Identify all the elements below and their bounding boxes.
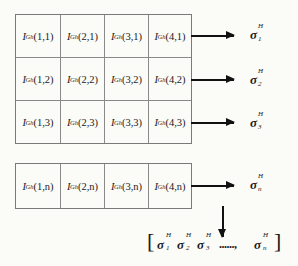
vector-item-1: σ H 1 — [157, 237, 164, 253]
cell-index: (4,1) — [165, 31, 185, 42]
cell-index: (3,1) — [122, 31, 142, 42]
cell-index: (2,1) — [78, 31, 98, 42]
sigma-subscript: 3 — [206, 244, 210, 252]
sigma-symbol: σ — [250, 115, 257, 130]
close-bracket: ] — [274, 230, 281, 252]
vector-item-2: σ H 2 — [177, 237, 184, 253]
right-arrow-icon — [191, 122, 234, 124]
grid-cell: IGh(4,3) — [149, 101, 191, 143]
cell-index: (2,2) — [78, 74, 98, 85]
cell-superscript: Gh — [157, 76, 165, 83]
sigma-superscript: H — [206, 231, 211, 239]
cell-superscript: Gh — [25, 119, 33, 126]
vector-item-n: σ H n — [254, 237, 261, 253]
cell-index: (4,2) — [165, 74, 185, 85]
sigma-subscript: 2 — [186, 244, 190, 252]
result-vector: [ σ H 1 σ H 2 σ H 3 ......, σ H n ] — [147, 230, 287, 256]
cell-index: (3,n) — [122, 181, 142, 192]
cell-superscript: Gh — [70, 119, 78, 126]
cell-superscript: Gh — [114, 76, 122, 83]
open-bracket: [ — [147, 230, 154, 252]
sigma-superscript: H — [258, 110, 263, 118]
sigma-superscript: H — [258, 172, 263, 180]
sigma-superscript: H — [186, 231, 191, 239]
sigma-symbol: σ — [250, 27, 257, 42]
grid-cell: IGh(4,1) — [149, 15, 191, 58]
sigma-symbol: σ — [157, 237, 164, 252]
sigma-subscript: n — [263, 244, 267, 252]
top-grid: IGh(1,1) IGh(2,1) IGh(3,1) IGh(4,1) IGh(… — [15, 14, 192, 144]
grid-cell: IGh(4,2) — [149, 58, 191, 101]
grid-cell: IGh(2,1) — [61, 15, 105, 58]
cell-index: (2,n) — [78, 181, 98, 192]
cell-superscript: Gh — [25, 183, 33, 190]
grid-cell: IGh(3,n) — [105, 164, 149, 208]
sigma-output-1: σ H 1 — [250, 27, 257, 43]
cell-index: (4,n) — [165, 181, 185, 192]
cell-index: (4,3) — [165, 117, 185, 128]
cell-superscript: Gh — [157, 119, 165, 126]
sigma-subscript: 1 — [166, 244, 170, 252]
grid-cell: IGh(2,3) — [61, 101, 105, 143]
sigma-symbol: σ — [250, 177, 257, 192]
cell-index: (3,3) — [122, 117, 142, 128]
cell-index: (3,2) — [122, 74, 142, 85]
ellipsis: ......, — [219, 237, 237, 252]
cell-superscript: Gh — [114, 119, 122, 126]
sigma-symbol: σ — [177, 237, 184, 252]
grid-cell: IGh(3,2) — [105, 58, 149, 101]
cell-superscript: Gh — [25, 76, 33, 83]
cell-index: (1,2) — [33, 74, 53, 85]
right-arrow-icon — [191, 79, 234, 81]
cell-superscript: Gh — [70, 33, 78, 40]
cell-superscript: Gh — [70, 183, 78, 190]
sigma-subscript: 1 — [258, 35, 262, 43]
sigma-symbol: σ — [197, 237, 204, 252]
sigma-subscript: 2 — [258, 80, 262, 88]
cell-index: (2,3) — [78, 117, 98, 128]
grid-cell: IGh(2,n) — [61, 164, 105, 208]
cell-superscript: Gh — [114, 33, 122, 40]
cell-superscript: Gh — [157, 33, 165, 40]
cell-index: (1,n) — [33, 181, 53, 192]
grid-cell: IGh(3,3) — [105, 101, 149, 143]
grid-cell: IGh(1,2) — [16, 58, 61, 101]
right-arrow-icon — [191, 185, 234, 187]
cell-index: (1,3) — [33, 117, 53, 128]
sigma-subscript: 3 — [258, 123, 262, 131]
grid-cell: IGh(1,n) — [16, 164, 61, 208]
cell-superscript: Gh — [157, 183, 165, 190]
sigma-output-3: σ H 3 — [250, 115, 257, 131]
cell-superscript: Gh — [25, 33, 33, 40]
right-arrow-icon — [191, 35, 234, 37]
sigma-symbol: σ — [250, 72, 257, 87]
cell-index: (1,1) — [33, 31, 53, 42]
sigma-output-2: σ H 2 — [250, 72, 257, 88]
cell-superscript: Gh — [70, 76, 78, 83]
sigma-superscript: H — [258, 22, 263, 30]
sigma-output-n: σ H n — [250, 177, 257, 193]
cell-superscript: Gh — [114, 183, 122, 190]
grid-cell: IGh(2,2) — [61, 58, 105, 101]
sigma-symbol: σ — [254, 237, 261, 252]
grid-cell: IGh(1,3) — [16, 101, 61, 143]
grid-cell: IGh(1,1) — [16, 15, 61, 58]
grid-cell: IGh(3,1) — [105, 15, 149, 58]
bottom-grid: IGh(1,n) IGh(2,n) IGh(3,n) IGh(4,n) — [15, 163, 192, 209]
vector-item-3: σ H 3 — [197, 237, 204, 253]
sigma-superscript: H — [258, 67, 263, 75]
sigma-superscript: H — [263, 231, 268, 239]
sigma-subscript: n — [258, 185, 262, 193]
sigma-superscript: H — [166, 231, 171, 239]
grid-cell: IGh(4,n) — [149, 164, 191, 208]
